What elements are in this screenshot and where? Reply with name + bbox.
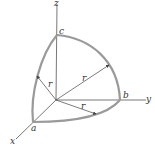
radius-label-bottom: r [81,102,85,111]
arc-a-to-b [33,100,120,122]
z-axis-label: z [54,0,59,8]
sphere-octant-diagram [0,0,155,153]
point-c-label: c [59,27,64,36]
arc-c-to-a [32,35,57,122]
point-a-label: a [31,124,36,133]
y-axis-label: y [146,95,151,104]
arc-c-to-b [57,35,120,100]
radius-label-left: r [48,80,52,89]
z-axis [56,4,57,100]
radius-arrow-left [37,76,56,100]
x-axis [16,100,56,139]
point-b-label: b [123,91,129,100]
x-axis-label: x [10,137,15,146]
radius-arrow-bottom [56,100,96,114]
radius-label-upper-right: r [82,74,86,83]
